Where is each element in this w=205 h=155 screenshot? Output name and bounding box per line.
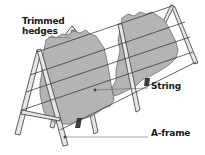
left-hedge — [40, 30, 114, 124]
a-frame-label: A-frame — [151, 128, 190, 138]
trimmed-hedges-label: Trimmed hedges — [22, 16, 62, 36]
right-trunk — [144, 78, 150, 86]
string-label: String — [151, 81, 181, 91]
